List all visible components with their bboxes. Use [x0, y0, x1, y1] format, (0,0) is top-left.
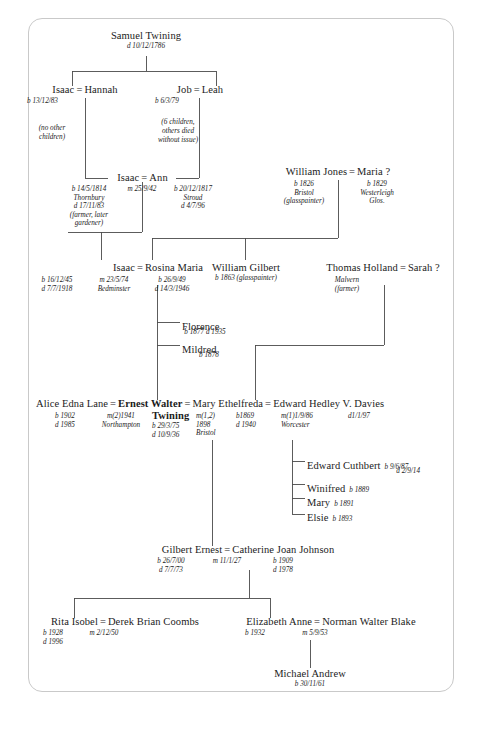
marriage-dates-mary-edward: m(1)1/9/86 Worcester [281, 412, 343, 429]
date-line-2: Thornbury [58, 194, 120, 203]
marriage-symbol-3: = [263, 398, 273, 409]
person-name-thomas-holland: Thomas Holland [326, 262, 398, 273]
person-william-gilbert: William Gilbert b 1863 (glasspainter) [196, 262, 296, 283]
date-line-2: Northampton [88, 421, 154, 430]
person-name-edward-davies: Edward Hedley V. Davies [273, 398, 384, 409]
couple-isaac-hannah: Isaac=Hannah [25, 84, 145, 96]
marriage-symbol: = [98, 616, 108, 627]
person-name-ann: Ann [149, 172, 167, 183]
marriage-symbol: = [192, 84, 202, 95]
date-line-2: Bristol [272, 189, 336, 198]
person-name-ernest-walter: Ernest Walter [118, 398, 182, 409]
date-line-3: Bristol [196, 429, 236, 438]
person-dates-isaac3: b 16/12/45 d 7/7/1918 [28, 276, 86, 293]
date-line-1: b 1826 [272, 180, 336, 189]
couple-names: Thomas Holland=Sarah ? [300, 262, 466, 274]
date-line-1: b 26/7/00 [140, 557, 202, 566]
couple-elizabeth-norman: Elizabeth Anne=Norman Walter Blake [224, 616, 438, 628]
note-line-2: others died [140, 127, 216, 136]
person-dates: b 30/11/61 [252, 680, 368, 689]
note-line-1: (no other [22, 124, 82, 133]
date-line-2: Worcester [281, 421, 343, 430]
marriage-symbol: = [74, 84, 84, 95]
couple-isaac-ann: Isaac=Ann [105, 172, 180, 184]
date-line-4: (farmer, later [58, 211, 120, 220]
person-dates-maria: b 1829 Westerleigh Glos. [344, 180, 410, 206]
note-line-3: without issue) [140, 136, 216, 145]
person-michael-andrew: Michael Andrew b 30/11/61 [252, 668, 368, 689]
date-line-1: Malvern [312, 276, 382, 285]
date-line-1: b1869 [236, 412, 280, 421]
date-line-1: b 20/12/1817 [162, 185, 224, 194]
person-dates-isaac1: b 13/12/83 [27, 97, 58, 106]
marriage-date-rita-derek: m 2/12/50 [78, 629, 130, 638]
person-name-derek: Derek Brian Coombs [108, 616, 199, 627]
person-name: Michael Andrew [252, 668, 368, 680]
person-dates-thomas-holland: Malvern (farmer) [312, 276, 382, 293]
person-dates-william-jones: b 1826 Bristol (glasspainter) [272, 180, 336, 206]
date-line-3: Glos. [344, 197, 410, 206]
date-line-2: (farmer) [312, 285, 382, 294]
couple-williamjones-maria: William Jones=Maria ? [263, 166, 413, 178]
person-name-rita: Rita Isobel [51, 616, 98, 627]
couple-names: William Jones=Maria ? [263, 166, 413, 178]
marriage-symbol: = [312, 616, 322, 627]
date-line-1: b 1928 [30, 629, 76, 638]
person-dates-isaac2: b 14/5/1814 Thornbury d 17/11/83 (farmer… [58, 185, 120, 228]
marriage-symbol: = [139, 172, 149, 183]
date-line-1: b 1902 [40, 412, 90, 421]
chain-names: Alice Edna Lane=Ernest Walter=Mary Ethel… [36, 398, 446, 410]
marriage-symbol: = [398, 262, 408, 273]
person-dates-gilbert-ernest: b 26/7/00 d 7/7/73 [140, 557, 202, 574]
date-line-5: gardener) [58, 219, 120, 228]
person-dates-mary-ethelfreda: b1869 d 1940 [236, 412, 280, 429]
person-dates-rosina: b 26/9/49 d 14/3/1946 [142, 276, 202, 293]
couple-names: Isaac=Ann [105, 172, 180, 184]
note-line-2: children) [22, 133, 82, 142]
person-dates-elizabeth: b 1932 [230, 629, 280, 638]
marriage-symbol: = [135, 262, 145, 273]
couple-thomasholland-sarah: Thomas Holland=Sarah ? [300, 262, 466, 274]
person-dates-rita: b 1928 d 1996 [30, 629, 76, 646]
note-line-1: (6 children, [140, 118, 216, 127]
person-name-catherine: Catherine Joan Johnson [232, 544, 334, 555]
date-line-1: b 16/12/45 [28, 276, 86, 285]
date-line-2: Bedminster [86, 285, 142, 294]
note-hannah-children: (no other children) [22, 124, 82, 142]
marriage-dates-isaac3-rosina: m 23/5/74 Bedminster [86, 276, 142, 293]
couple-names: Gilbert Ernest=Catherine Joan Johnson [128, 544, 368, 556]
person-name-hannah: Hannah [84, 84, 117, 95]
date-line-2: Stroud [162, 194, 224, 203]
person-name-norman: Norman Walter Blake [322, 616, 416, 627]
date-line-2: d 7/7/73 [140, 566, 202, 575]
couple-names: Rita Isobel=Derek Brian Coombs [30, 616, 220, 628]
person-name: Elsie [307, 512, 329, 523]
date-line-3: d 17/11/83 [58, 202, 120, 211]
date-line-2: d 1978 [256, 566, 310, 575]
marriage-date-gilbert-catherine: m 11/1/27 [202, 557, 252, 566]
person-name-isaac2: Isaac [117, 172, 139, 183]
marriage-symbol: = [222, 544, 232, 555]
date-line-1: b 1909 [256, 557, 310, 566]
person-dates-edward-davies: d1/1/97 [348, 412, 398, 421]
person-elsie: Elsie b 1893 [307, 507, 352, 525]
date-line-1: b 14/5/1814 [58, 185, 120, 194]
person-name-isaac3: Isaac [113, 262, 135, 273]
date-line-1: m 23/5/74 [86, 276, 142, 285]
date-line-1: m(1,2) [196, 412, 236, 421]
date-line-1: b 26/9/49 [142, 276, 202, 285]
person-name-sarah: Sarah ? [408, 262, 440, 273]
person-dates-job: b 6/3/79 [155, 97, 179, 106]
person-dates: b 1863 (glasspainter) [196, 274, 296, 283]
date-line-2: 1898 [196, 421, 236, 430]
person-name-mary-ethelfreda: Mary Ethelfreda [193, 398, 264, 409]
marriage-symbol: = [347, 166, 357, 177]
family-tree-chart: Samuel Twining d 10/12/1786 Isaac=Hannah… [0, 0, 480, 739]
person-name-job: Job [177, 84, 192, 95]
date-line-1: m(2)1941 [88, 412, 154, 421]
marriage-date-elizabeth-norman: m 5/9/53 [288, 629, 342, 638]
date-line-2: d 1940 [236, 421, 280, 430]
person-samuel-twining: Samuel Twining d 10/12/1786 [86, 30, 206, 51]
person-dates-catherine: b 1909 d 1978 [256, 557, 310, 574]
marriage-date-isaac2-ann: m 25/9/42 [119, 185, 165, 194]
